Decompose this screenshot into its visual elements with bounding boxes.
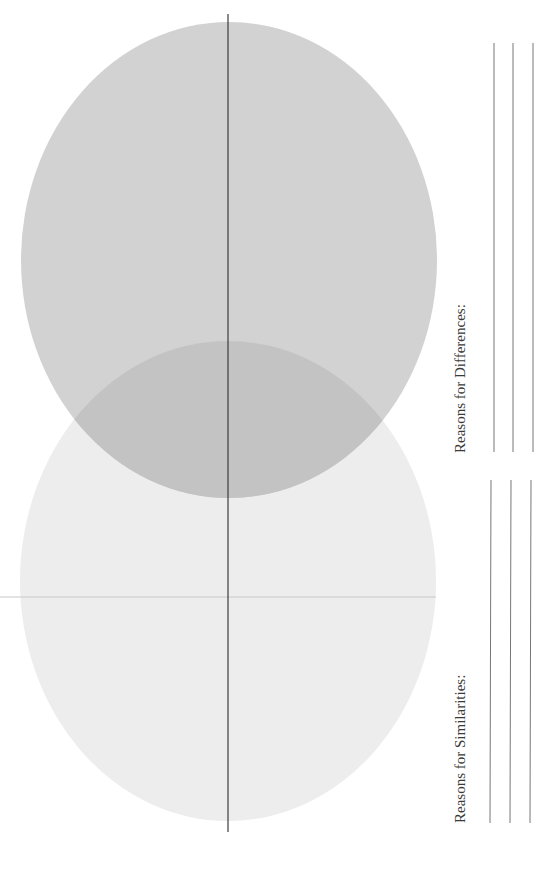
similarities-answer-line-3[interactable] bbox=[530, 480, 531, 823]
similarities-answer-line-1[interactable] bbox=[490, 480, 491, 823]
reasons-for-similarities-label: Reasons for Similarities: bbox=[452, 675, 468, 823]
similarities-answer-line-2[interactable] bbox=[510, 480, 511, 823]
venn-diagram bbox=[0, 0, 560, 872]
differences-answer-lines[interactable] bbox=[494, 43, 533, 452]
reasons-for-differences-label: Reasons for Differences: bbox=[452, 304, 468, 453]
similarities-answer-lines[interactable] bbox=[490, 480, 531, 823]
